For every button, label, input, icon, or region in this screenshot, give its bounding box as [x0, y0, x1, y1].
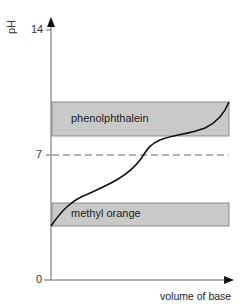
x-axis-arrow-icon — [224, 276, 234, 284]
tick-label-7: 7 — [36, 148, 42, 160]
x-axis-label: volume of base — [160, 290, 231, 302]
tick-label-0: 0 — [36, 273, 42, 285]
methyl-orange-label: methyl orange — [71, 207, 141, 219]
phenolphthalein-label: phenolphthalein — [71, 112, 149, 124]
y-axis-arrow-icon — [47, 17, 55, 27]
tick-label-14: 14 — [31, 23, 43, 35]
y-axis-label: pH — [5, 20, 17, 34]
